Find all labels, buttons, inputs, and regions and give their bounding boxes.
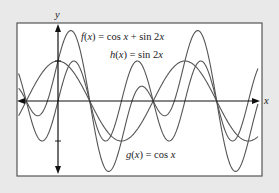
label-f: f(x) = cos x + sin 2x bbox=[81, 31, 164, 43]
y-axis-label: y bbox=[54, 9, 60, 20]
x-axis-label: x bbox=[263, 95, 269, 106]
label-h: h(x) = sin 2x bbox=[110, 49, 163, 61]
label-g: g(x) = cos x bbox=[126, 149, 176, 161]
function-graph: y x f(x) = cos x + sin 2x h(x) = sin 2x … bbox=[0, 0, 279, 193]
